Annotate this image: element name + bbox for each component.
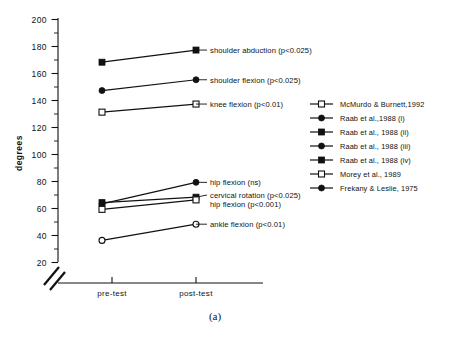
y-tick-label: 180 xyxy=(32,42,47,52)
y-tick-label: 100 xyxy=(32,150,47,160)
y-axis xyxy=(52,18,59,263)
legend-marker-filled-circle xyxy=(319,185,325,191)
series-shoulder-flexion: shoulder flexion (p<0.025) xyxy=(99,76,301,94)
legend-item: McMurdo & Burnett,1992 xyxy=(310,100,424,109)
legend-marker-open-square xyxy=(319,171,325,177)
y-tick-label: 40 xyxy=(37,231,47,241)
y-tick-labels: 200 180 160 140 120 100 80 60 40 20 xyxy=(32,15,47,268)
figure-caption: (a) xyxy=(209,310,222,323)
figure-panel: 200 180 160 140 120 100 80 60 40 20 degr… xyxy=(0,0,453,339)
legend-item: Frekany & Leslie, 1975 xyxy=(310,184,418,193)
x-tick-label-pre-test: pre-test xyxy=(97,289,127,298)
legend-marker-filled-circle xyxy=(319,143,325,149)
y-tick-label: 140 xyxy=(32,96,47,106)
legend-marker-filled-square xyxy=(319,129,325,135)
legend-label: McMurdo & Burnett,1992 xyxy=(340,100,424,109)
series-hip-flexion: hip flexion (p<0.001) xyxy=(99,197,281,212)
series-annotation-hip-flexion: hip flexion (p<0.001) xyxy=(210,200,281,209)
legend-item: Morey et al., 1989 xyxy=(310,170,401,179)
axis-break-icon xyxy=(44,267,65,290)
y-tick-label: 80 xyxy=(37,177,47,187)
series-annotation-knee-flexion: knee flexion (p<0.01) xyxy=(210,100,284,109)
series-annotation-shoulder-flexion: shoulder flexion (p<0.025) xyxy=(210,76,301,85)
x-tick-labels: pre-test post-test xyxy=(97,289,213,298)
y-tick-label: 120 xyxy=(32,123,47,133)
series-annotation-hip-flexion-ns: hip flexion (ns) xyxy=(210,178,261,187)
series-knee-flexion: knee flexion (p<0.01) xyxy=(99,100,284,115)
legend-label: Raab et al.,1988 (i) xyxy=(340,114,405,123)
legend-item: Raab et al., 1988 (iv) xyxy=(310,156,411,165)
legend-marker-filled-square xyxy=(319,157,325,163)
legend-item: Raab et al.,1988 (i) xyxy=(310,114,405,123)
line-chart: 200 180 160 140 120 100 80 60 40 20 degr… xyxy=(0,0,453,339)
legend-label: Morey et al., 1989 xyxy=(340,170,401,179)
legend-label: Raab et al., 1988 (iv) xyxy=(340,156,411,165)
y-axis-title: degrees xyxy=(14,135,24,171)
x-axis xyxy=(58,277,263,283)
series-annotation-shoulder-abduction: shoulder abduction (p<0.025) xyxy=(210,46,312,55)
legend-label: Raab et al., 1988 (ii) xyxy=(340,128,409,137)
series-annotation-ankle-flexion: ankle flexion (p<0.01) xyxy=(210,220,285,229)
y-tick-label: 160 xyxy=(32,69,47,79)
legend-item: Raab et al., 1988 (iii) xyxy=(310,142,411,151)
series-shoulder-abduction: shoulder abduction (p<0.025) xyxy=(99,46,312,65)
legend-item: Raab et al., 1988 (ii) xyxy=(310,128,409,137)
series-annotation-cervical-rotation: cervical rotation (p<0.025) xyxy=(210,191,301,200)
legend-marker-open-square xyxy=(319,101,325,107)
x-tick-label-post-test: post-test xyxy=(179,289,213,298)
y-tick-label: 20 xyxy=(37,258,47,268)
y-tick-label: 200 xyxy=(32,15,47,25)
legend: McMurdo & Burnett,1992 Raab et al.,1988 … xyxy=(310,100,424,193)
legend-label: Raab et al., 1988 (iii) xyxy=(340,142,411,151)
legend-marker-filled-circle xyxy=(319,115,325,121)
legend-label: Frekany & Leslie, 1975 xyxy=(340,184,418,193)
y-tick-label: 60 xyxy=(37,204,47,214)
series-ankle-flexion: ankle flexion (p<0.01) xyxy=(99,220,285,243)
